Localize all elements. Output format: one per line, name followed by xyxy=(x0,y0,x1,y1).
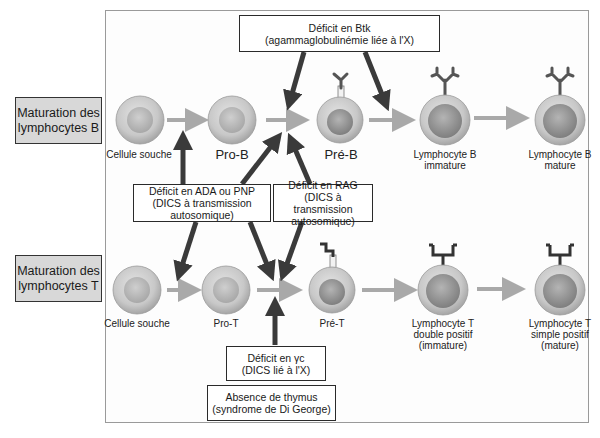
label-lt-double-positif: Lymphocyte T double positif (immature) xyxy=(412,318,474,351)
defect-box-rag: Déficit en RAG (DICS à transmission auto… xyxy=(273,184,373,222)
cell-lt-double-positif xyxy=(418,245,468,315)
label-lt-dp-line2: double positif xyxy=(412,329,474,340)
cell-pre-t xyxy=(309,244,355,313)
defect-ada-line3: autosomique) xyxy=(170,209,234,221)
defect-gc-line1: Déficit en γc xyxy=(247,352,304,364)
label-lb-immature: Lymphocyte B immature xyxy=(414,149,477,171)
defect-btk-line1: Déficit en Btk xyxy=(309,22,371,34)
defect-rag-line1: Déficit en RAG xyxy=(288,179,357,191)
defect-rag-line3: autosomique) xyxy=(291,215,355,227)
cell-stem-b xyxy=(116,96,164,144)
cell-pro-t xyxy=(202,266,250,314)
label-lt-simple-positif: Lymphocyte T simple positif (mature) xyxy=(529,318,591,351)
defect-gc-line2: (DICS lié à l'X) xyxy=(242,364,311,376)
label-pro-t: Pro-T xyxy=(214,318,239,329)
defect-ada-line2: (DICS à transmission xyxy=(152,197,251,209)
label-lb-mature: Lymphocyte B mature xyxy=(529,149,592,171)
defect-ada-line1: Déficit en ADA ou PNP xyxy=(149,185,255,197)
label-cellule-souche-b: Cellule souche xyxy=(106,149,172,160)
defect-box-gamma-c: Déficit en γc (DICS lié à l'X) xyxy=(226,346,326,381)
label-lb-mature-line1: Lymphocyte B xyxy=(529,149,592,160)
label-lb-immature-line1: Lymphocyte B xyxy=(414,149,477,160)
label-lt-dp-line1: Lymphocyte T xyxy=(412,318,474,329)
label-lb-immature-line2: immature xyxy=(414,160,477,171)
defect-rag-line2: (DICS à transmission xyxy=(274,191,372,215)
label-pre-t: Pré-T xyxy=(320,318,345,329)
cell-lb-mature xyxy=(535,68,585,145)
label-cellule-souche-t: Cellule souche xyxy=(104,318,170,329)
label-pro-b: Pro-B xyxy=(215,148,248,162)
label-lt-sp-line1: Lymphocyte T xyxy=(529,318,591,329)
defect-thymus-line2: (syndrome de Di George) xyxy=(212,403,330,415)
label-lt-sp-line2: simple positif xyxy=(529,329,591,340)
defect-box-ada-pnp: Déficit en ADA ou PNP (DICS à transmissi… xyxy=(133,184,271,222)
defect-box-btk: Déficit en Btk (agammaglobulinémie liée … xyxy=(239,15,440,52)
defect-box-thymus: Absence de thymus (syndrome de Di George… xyxy=(207,385,336,421)
label-pre-b: Pré-B xyxy=(324,148,357,162)
defect-btk-line2: (agammaglobulinémie liée à l'X) xyxy=(265,34,414,46)
cell-pro-b xyxy=(208,96,256,144)
cell-lt-simple-positif xyxy=(535,245,585,315)
label-lt-sp-line3: (mature) xyxy=(529,340,591,351)
cell-lb-immature xyxy=(420,68,470,145)
label-lb-mature-line2: mature xyxy=(529,160,592,171)
cell-stem-t xyxy=(113,266,161,314)
cell-pre-b xyxy=(317,74,363,143)
defect-thymus-line1: Absence de thymus xyxy=(225,391,317,403)
label-lt-dp-line3: (immature) xyxy=(412,340,474,351)
